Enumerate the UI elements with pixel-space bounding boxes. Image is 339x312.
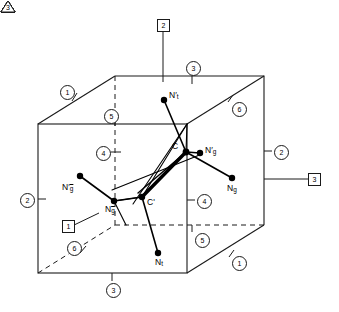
node-dot-ngbarprime bbox=[77, 173, 83, 179]
tick-1-bottomright bbox=[229, 250, 234, 257]
marker-circled-6-bottomleft: 6 bbox=[67, 241, 82, 256]
node-dot-nt bbox=[155, 250, 161, 256]
node-dot-ngbar bbox=[111, 198, 117, 204]
node-label-ntprime: N′t bbox=[169, 91, 179, 101]
node-label-ngbar: Ng bbox=[105, 205, 115, 215]
bond-ngbar-down bbox=[114, 201, 126, 225]
node-dots bbox=[77, 97, 235, 256]
marker-circled-1-topleft: 1 bbox=[60, 85, 75, 100]
marker-boxed-2-top: 2 bbox=[157, 19, 170, 32]
node-dot-cprime bbox=[139, 194, 145, 200]
bond-cprime-corner bbox=[142, 124, 187, 197]
diagram-canvas: C C' N′t N′g Ng N′g Ng Nt 1 5 3 6 2 4 2 … bbox=[0, 0, 339, 312]
node-dot-ngprime bbox=[197, 150, 203, 156]
marker-boxed-1-left: 1 bbox=[62, 220, 75, 233]
bond-axis-up bbox=[133, 124, 187, 204]
node-label-ng: Ng bbox=[227, 184, 237, 194]
cube-diagonal-bottomright bbox=[187, 225, 264, 273]
marker-circled-1-bottomright: 1 bbox=[232, 256, 247, 271]
marker-circled-4-mid: 4 bbox=[96, 146, 111, 161]
bond-network bbox=[80, 100, 232, 253]
marker-circled-2-left: 2 bbox=[20, 193, 35, 208]
bond-ngbar-cprime-b bbox=[114, 197, 142, 201]
diagram-svg bbox=[0, 0, 339, 312]
marker-circled-5-upper: 5 bbox=[104, 109, 119, 124]
node-label-cprime: C' bbox=[147, 198, 155, 207]
marker-circled-3-bottom: 3 bbox=[106, 283, 121, 298]
bond-ngbarprime-ngbar bbox=[80, 176, 114, 201]
node-dot-c bbox=[183, 149, 190, 156]
marker-boxed-3-right: 3 bbox=[308, 173, 321, 186]
cube-back-face-top bbox=[115, 76, 264, 225]
node-dot-ntprime bbox=[161, 97, 167, 103]
leader-boxed-1 bbox=[72, 213, 99, 226]
node-label-nt: Nt bbox=[155, 258, 163, 268]
marker-circled-2-right: 2 bbox=[274, 145, 289, 160]
marker-circled-3-top: 3 bbox=[186, 61, 201, 76]
node-label-ngbarprime: N′g bbox=[62, 183, 73, 193]
node-dot-ng bbox=[229, 175, 235, 181]
node-label-c: C bbox=[172, 142, 178, 151]
bond-c-ng bbox=[186, 152, 232, 178]
marker-circled-4-right: 4 bbox=[197, 194, 212, 209]
cube-diagonal-topright bbox=[187, 76, 264, 124]
node-label-ngprime: N′g bbox=[205, 146, 216, 156]
marker-circled-5-lower: 5 bbox=[195, 233, 210, 248]
marker-circled-6-topright: 6 bbox=[232, 102, 247, 117]
